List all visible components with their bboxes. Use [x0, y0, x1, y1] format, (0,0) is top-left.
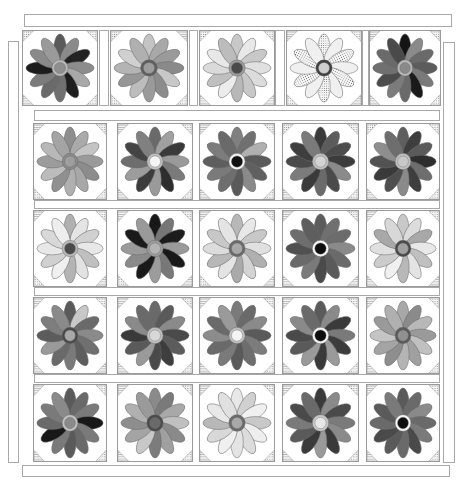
daisy-block-r5-c4 [282, 384, 359, 462]
daisy-flower-icon [118, 211, 192, 286]
daisy-flower-icon [34, 298, 106, 373]
daisy-block-r2-c4 [282, 123, 359, 200]
daisy-flower-icon [200, 124, 274, 199]
daisy-flower-icon [367, 211, 439, 286]
left-border [8, 41, 19, 463]
daisy-block-r5-c1 [33, 384, 107, 462]
top-border [24, 14, 452, 27]
daisy-flower-icon [200, 385, 274, 461]
daisy-block-r4-c2 [117, 297, 193, 374]
daisy-flower-icon [283, 298, 358, 373]
daisy-block-r1-c5 [369, 30, 441, 106]
sashing-4 [34, 374, 440, 383]
daisy-block-r5-c2 [117, 384, 193, 462]
daisy-flower-icon [283, 211, 358, 286]
daisy-flower-icon [118, 124, 192, 199]
daisy-block-r2-c2 [117, 123, 193, 200]
daisy-block-r1-c4 [286, 30, 362, 106]
daisy-flower-icon [367, 124, 439, 199]
row1-sash-c [275, 30, 285, 106]
daisy-block-r3-c4 [282, 210, 359, 287]
daisy-flower-icon [34, 124, 106, 199]
daisy-flower-icon [200, 298, 274, 373]
daisy-block-r4-c3 [199, 297, 275, 374]
daisy-block-r3-c5 [366, 210, 440, 287]
daisy-block-r5-c3 [199, 384, 275, 462]
sashing-1 [34, 110, 440, 121]
daisy-flower-icon [370, 31, 440, 105]
daisy-block-r2-c5 [366, 123, 440, 200]
daisy-block-r2-c3 [199, 123, 275, 200]
daisy-flower-icon [283, 124, 358, 199]
row1-sash-b [189, 30, 198, 106]
sashing-2 [34, 200, 440, 209]
bottom-border [22, 465, 450, 477]
daisy-block-r3-c3 [199, 210, 275, 287]
daisy-flower-icon [34, 385, 106, 461]
daisy-flower-icon [34, 211, 106, 286]
daisy-flower-icon [367, 298, 439, 373]
daisy-block-r3-c2 [117, 210, 193, 287]
right-border [443, 42, 455, 463]
daisy-flower-icon [118, 298, 192, 373]
daisy-flower-icon [23, 31, 97, 105]
daisy-flower-icon [111, 31, 187, 105]
daisy-flower-icon [287, 31, 361, 105]
daisy-block-r2-c1 [33, 123, 107, 200]
daisy-flower-icon [283, 385, 358, 461]
daisy-flower-icon [200, 31, 274, 105]
daisy-block-r1-c3 [199, 30, 275, 106]
daisy-block-r1-c1 [22, 30, 98, 106]
daisy-flower-icon [200, 211, 274, 286]
daisy-flower-icon [367, 385, 439, 461]
daisy-block-r4-c5 [366, 297, 440, 374]
daisy-block-r4-c1 [33, 297, 107, 374]
row1-sash-d [362, 30, 369, 106]
daisy-block-r1-c2 [110, 30, 188, 106]
daisy-block-r5-c5 [366, 384, 440, 462]
daisy-flower-icon [118, 385, 192, 461]
daisy-block-r3-c1 [33, 210, 107, 287]
sashing-3 [34, 287, 440, 296]
row1-sash-a [99, 30, 109, 106]
daisy-block-r4-c4 [282, 297, 359, 374]
